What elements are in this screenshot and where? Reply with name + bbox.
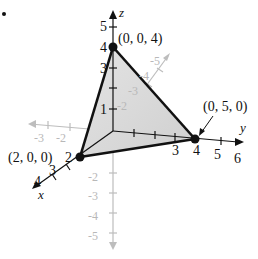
y-tick-label: 4 bbox=[193, 143, 200, 158]
neg-z-tick-label: -4 bbox=[88, 209, 98, 223]
triangle-3d-diagram: (0, 0, 4) (0, 5, 0) (2, 0, 0) z y x 1 3 … bbox=[0, 0, 258, 259]
neg-y-tick-label: -5 bbox=[150, 54, 160, 68]
neg-x-tick-label: -2 bbox=[56, 131, 66, 145]
point-label-y: (0, 5, 0) bbox=[203, 99, 248, 115]
x-tick-label: 4 bbox=[34, 174, 41, 189]
point-label-z: (0, 0, 4) bbox=[118, 31, 163, 47]
vertex-point-z bbox=[109, 43, 118, 52]
neg-x-tick-label: -3 bbox=[34, 131, 44, 145]
y-axis-label: y bbox=[238, 120, 246, 135]
point-label-x: (2, 0, 0) bbox=[8, 150, 53, 166]
x-axis-label: x bbox=[37, 187, 44, 202]
z-tick-label: 1 bbox=[100, 102, 107, 117]
neg-y-tick-label: -2 bbox=[117, 99, 127, 113]
vertex-point-x bbox=[76, 153, 85, 162]
z-tick-label: 3 bbox=[100, 61, 107, 76]
x-tick-label: 3 bbox=[49, 163, 56, 178]
z-tick-label: 5 bbox=[100, 19, 107, 34]
y-tick-label: 6 bbox=[234, 151, 241, 166]
neg-z-tick-label: -2 bbox=[88, 170, 98, 184]
x-tick-label: 2 bbox=[65, 150, 72, 165]
neg-y-tick-label: -3 bbox=[128, 84, 138, 98]
z-axis-label: z bbox=[118, 5, 124, 20]
z-tick-label: 4 bbox=[100, 40, 107, 55]
neg-z-tick-label: -3 bbox=[88, 189, 98, 203]
y-tick-label: 3 bbox=[172, 143, 179, 158]
neg-y-tick-label: -4 bbox=[139, 69, 149, 83]
neg-z-tick-label: -5 bbox=[88, 229, 98, 243]
y-tick-label: 5 bbox=[214, 147, 221, 162]
bullet-marker bbox=[2, 12, 6, 16]
